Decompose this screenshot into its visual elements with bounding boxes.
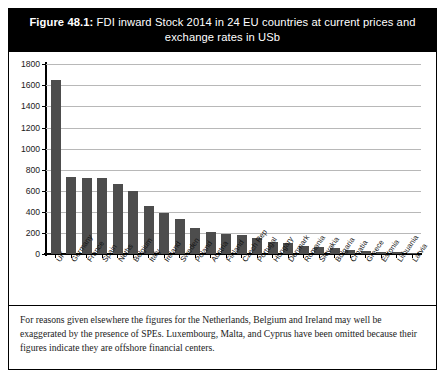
bar-slot	[234, 64, 250, 254]
bar-slot	[327, 64, 343, 254]
bar-slot	[48, 64, 64, 254]
bar-slot	[79, 64, 95, 254]
y-tick-label: 1600	[21, 81, 40, 90]
chart-plot-region: 020040060080010001200140016001800 UKGerm…	[9, 52, 436, 305]
bar-slot	[358, 64, 374, 254]
figure-title-text: FDI inward Stock 2014 in 24 EU countries…	[93, 16, 415, 43]
bar[interactable]	[66, 177, 76, 254]
bar[interactable]	[113, 184, 123, 255]
x-label-slot: Ireland	[157, 259, 173, 305]
bar[interactable]	[51, 80, 61, 254]
bar-slot	[172, 64, 188, 254]
bar-slot	[64, 64, 80, 254]
x-label-slot: Greece	[358, 259, 374, 305]
x-label-slot: Czech Rep	[234, 259, 250, 305]
x-label-slot: Portugal	[250, 259, 266, 305]
figure-title-banner: Figure 48.1: FDI inward Stock 2014 in 24…	[9, 9, 436, 52]
x-label-slot: Germany	[64, 259, 80, 305]
x-label-slot: Romania	[296, 259, 312, 305]
y-tick-label: 400	[26, 208, 40, 217]
x-label-slot: Croatia	[343, 259, 359, 305]
x-label-slot: Italy	[141, 259, 157, 305]
bar-slot	[188, 64, 204, 254]
x-label-slot: France	[79, 259, 95, 305]
x-label-slot: UK	[48, 259, 64, 305]
x-label-slot: Austria	[203, 259, 219, 305]
bar-slot	[250, 64, 266, 254]
bar-slot	[157, 64, 173, 254]
y-tick-label: 1200	[21, 123, 40, 132]
bar-slot	[265, 64, 281, 254]
y-tick-label: 0	[35, 250, 40, 259]
x-label-slot: Estonia	[374, 259, 390, 305]
x-label-slot: Latvia	[405, 259, 421, 305]
y-tick-label: 1800	[21, 60, 40, 69]
bar-slot	[203, 64, 219, 254]
x-label-slot: Sweden	[172, 259, 188, 305]
x-label-slot: Bulgaria	[327, 259, 343, 305]
figure-frame: Figure 48.1: FDI inward Stock 2014 in 24…	[8, 8, 437, 370]
x-label-slot: Poland	[188, 259, 204, 305]
figure-root: Figure 48.1: FDI inward Stock 2014 in 24…	[0, 0, 445, 378]
bar-slot	[343, 64, 359, 254]
bar-slot	[374, 64, 390, 254]
figure-number: Figure 48.1:	[29, 16, 93, 28]
bar-slot	[389, 64, 405, 254]
bar-slot	[141, 64, 157, 254]
y-tick-label: 200	[26, 229, 40, 238]
x-label-slot: Slovakia	[312, 259, 328, 305]
x-label-slot: Neths	[110, 259, 126, 305]
y-tick-label: 1000	[21, 144, 40, 153]
y-tick-label: 1400	[21, 102, 40, 111]
bar-slot	[126, 64, 142, 254]
x-label-slot: Belgium	[126, 259, 142, 305]
bar-slot	[296, 64, 312, 254]
y-tick-label: 800	[26, 165, 40, 174]
chart-axes: 020040060080010001200140016001800	[45, 64, 421, 254]
bar-slot	[281, 64, 297, 254]
x-label-slot: Spain	[95, 259, 111, 305]
bar-slot	[110, 64, 126, 254]
x-label-slot: Denmark	[281, 259, 297, 305]
x-label-slot: Finland	[219, 259, 235, 305]
bars-group	[45, 64, 421, 254]
bar-slot	[312, 64, 328, 254]
bar-slot	[405, 64, 421, 254]
x-tick-labels-group: UKGermanyFranceSpainNethsBelgiumItalyIre…	[45, 259, 421, 305]
bar[interactable]	[159, 213, 169, 255]
x-label-slot: Hungary	[265, 259, 281, 305]
y-tick-label: 600	[26, 187, 40, 196]
figure-caption: For reasons given elsewhere the figures …	[9, 306, 436, 363]
bar-slot	[219, 64, 235, 254]
bar-slot	[95, 64, 111, 254]
x-label-slot: Lithuania	[389, 259, 405, 305]
